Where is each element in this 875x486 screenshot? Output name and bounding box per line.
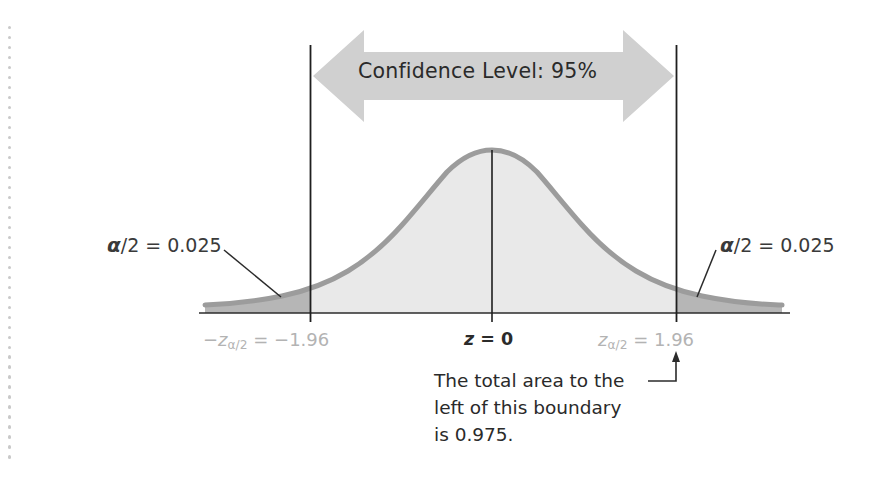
confidence-interval-diagram: Confidence Level: 95% α/2 = 0.025 α/2 = … <box>0 0 875 486</box>
z-value-center: = 0 <box>474 329 513 349</box>
center-z-label: z = 0 <box>464 329 513 351</box>
cumulative-area-note: The total area to theleft of this bounda… <box>434 368 624 448</box>
note-leader-line <box>648 358 676 381</box>
alpha-symbol-right: α <box>720 233 734 257</box>
left-alpha-leader-line <box>224 250 281 297</box>
alpha-value-right: /2 = 0.025 <box>734 234 835 256</box>
lower-critical-value-label: −zα/2 = −1.96 <box>203 329 329 354</box>
note-line-2: left of this boundary <box>434 397 621 418</box>
z-variable-center: z <box>464 329 474 349</box>
alpha-value-left: /2 = 0.025 <box>121 234 222 256</box>
right-tail-alpha-label: α/2 = 0.025 <box>720 233 835 258</box>
left-tail-alpha-label: α/2 = 0.025 <box>107 233 222 258</box>
minus-sign: − <box>203 329 218 350</box>
central-confidence-region <box>205 150 782 313</box>
note-line-1: The total area to the <box>434 370 624 391</box>
note-line-3: is 0.975. <box>434 424 514 445</box>
right-alpha-leader-line <box>697 250 716 297</box>
alpha-symbol-left: α <box>107 233 121 257</box>
confidence-level-label: Confidence Level: 95% <box>358 59 597 84</box>
z-subscript-left: α/2 <box>228 338 248 352</box>
upper-critical-value-label: zα/2 = 1.96 <box>598 329 694 354</box>
z-value-left: = −1.96 <box>248 329 330 350</box>
z-value-right: = 1.96 <box>627 329 694 350</box>
z-subscript-right: α/2 <box>607 338 627 352</box>
z-variable-left: z <box>218 329 227 350</box>
